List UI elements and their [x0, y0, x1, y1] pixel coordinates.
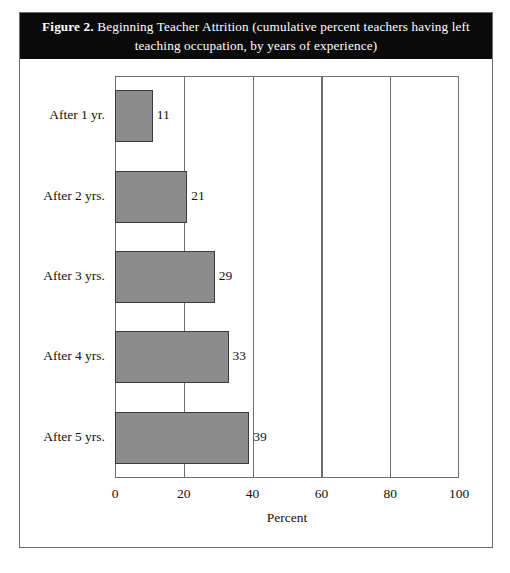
figure-frame: Figure 2. Beginning Teacher Attrition (c…: [19, 12, 493, 548]
bar-value-label: 29: [219, 268, 233, 284]
bar: [115, 171, 187, 223]
bar: [115, 90, 153, 142]
gridline-80: [390, 76, 391, 478]
x-tick-label-100: 100: [449, 486, 469, 502]
bar: [115, 251, 215, 303]
chart-area: 1121293339 After 1 yr.After 2 yrs.After …: [20, 59, 492, 547]
category-label: After 1 yr.: [13, 107, 105, 123]
figure-title-text: Figure 2. Beginning Teacher Attrition (c…: [34, 17, 478, 55]
category-label: After 3 yrs.: [13, 268, 105, 284]
x-tick-label-0: 0: [112, 486, 119, 502]
x-tick-label-40: 40: [246, 486, 260, 502]
x-axis-title: Percent: [115, 510, 459, 526]
bar-value-label: 39: [253, 429, 267, 445]
figure-caption: Beginning Teacher Attrition (cumulative …: [97, 19, 470, 53]
figure-title-band: Figure 2. Beginning Teacher Attrition (c…: [20, 13, 492, 59]
figure-number-label: Figure 2.: [42, 19, 94, 34]
x-tick-label-80: 80: [383, 486, 397, 502]
gridline-40: [253, 76, 254, 478]
bar-value-label: 33: [233, 348, 247, 364]
category-label: After 4 yrs.: [13, 348, 105, 364]
bar: [115, 412, 249, 464]
bar-value-label: 11: [157, 107, 170, 123]
bar: [115, 331, 229, 383]
x-tick-label-60: 60: [315, 486, 329, 502]
x-tick-label-20: 20: [177, 486, 191, 502]
category-label: After 5 yrs.: [13, 429, 105, 445]
category-label: After 2 yrs.: [13, 188, 105, 204]
gridline-60: [321, 76, 322, 478]
bar-value-label: 21: [191, 188, 205, 204]
